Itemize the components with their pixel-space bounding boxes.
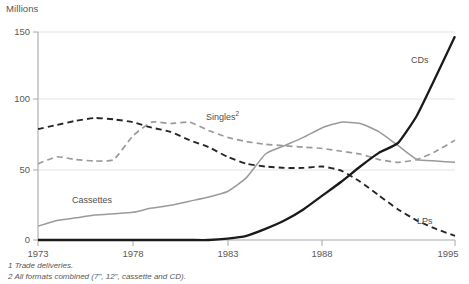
xtick-label-1983: 1983 <box>208 248 248 259</box>
ytick-label-150: 150 <box>4 26 30 37</box>
series-label-cassettes: Cassettes <box>72 195 112 205</box>
xtick-label-1978: 1978 <box>113 248 153 259</box>
series-line-cds <box>38 36 455 240</box>
footnotes: 1 Trade deliveries. 2 All formats combin… <box>8 260 186 282</box>
xtick-label-1988: 1988 <box>302 248 342 259</box>
series-label-singles-text: Singles <box>206 112 236 122</box>
series-label-singles-footnote-ref: 2 <box>236 110 240 117</box>
ytick-label-0: 0 <box>4 234 30 245</box>
xtick-label-1973: 1973 <box>18 248 58 259</box>
chart-plot-area <box>0 0 469 284</box>
data-series-group <box>38 36 455 240</box>
axes <box>33 32 455 246</box>
footnote-1: 1 Trade deliveries. <box>8 260 186 271</box>
xtick-label-1995: 1995 <box>428 248 468 259</box>
series-label-cds: CDs <box>411 55 429 65</box>
chart-container: Millions 150 100 50 0 197 <box>0 0 469 284</box>
footnote-2: 2 All formats combined (7", 12", cassett… <box>8 271 186 282</box>
gridlines <box>38 32 455 170</box>
series-line-singles <box>38 122 455 164</box>
ytick-label-100: 100 <box>4 93 30 104</box>
series-label-lps: LPs <box>417 216 433 226</box>
series-label-singles: Singles2 <box>206 112 239 122</box>
series-line-cassettes <box>38 122 455 226</box>
ytick-label-50: 50 <box>4 164 30 175</box>
